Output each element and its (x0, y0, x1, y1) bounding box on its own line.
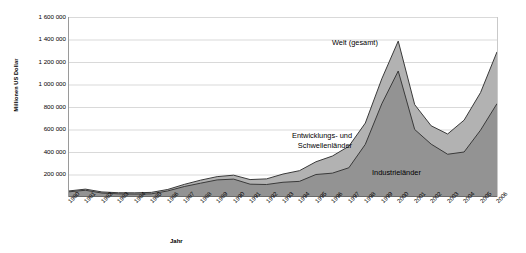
annotation-developing-countries: Entwicklungs- und Schwellenländer (222, 131, 352, 150)
y-tick-label: 1 400 000 (14, 36, 66, 42)
y-tick-label: 600 000 (14, 126, 66, 132)
annotation-developing-line1: Entwicklungs- und (222, 131, 352, 141)
annotation-developing-line2: Schwellenländer (222, 141, 352, 151)
x-axis-tick-labels: 1980198119821983198419851986198719881989… (68, 197, 497, 253)
area-chart-svg (69, 17, 498, 197)
annotation-world-total: Welt (gesamt) (332, 38, 378, 48)
y-tick-label: 1 000 000 (14, 81, 66, 87)
y-tick-label: 1 600 000 (14, 14, 66, 20)
y-tick-label: 800 000 (14, 104, 66, 110)
y-axis-tick-labels: 1 600 0001 400 0001 200 0001 000 000800 … (10, 0, 66, 253)
y-tick-label: 200 000 (14, 171, 66, 177)
y-tick-label: 400 000 (14, 149, 66, 155)
annotation-industrial-countries: Industrieländer (372, 168, 421, 178)
plot-area (68, 17, 497, 197)
y-tick-label: 1 200 000 (14, 59, 66, 65)
x-axis-title: Jahr (170, 238, 183, 244)
chart-container: Millionen US Dollar 1 600 0001 400 0001 … (0, 0, 526, 253)
